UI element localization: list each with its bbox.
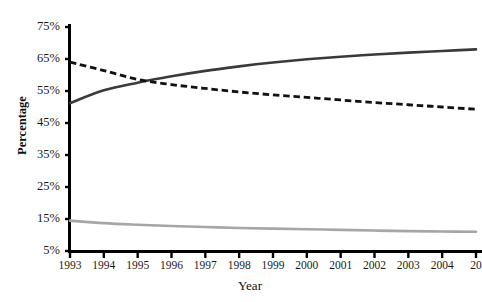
y-axis-title: Percentage	[15, 86, 30, 166]
y-tick-label: 15%	[20, 212, 60, 225]
chart-plot-area	[0, 0, 482, 302]
y-tick-label: 65%	[20, 52, 60, 65]
x-tick-label: 1995	[119, 260, 157, 272]
x-tick-label: 2002	[356, 260, 394, 272]
y-tick-label: 5%	[20, 244, 60, 257]
series-line-declining-dashed	[70, 62, 476, 109]
y-tick-label: 25%	[20, 180, 60, 193]
x-tick-label: 1993	[51, 260, 89, 272]
x-tick-label: 1999	[254, 260, 292, 272]
x-tick-label: 2004	[423, 260, 461, 272]
x-tick-label: 1996	[153, 260, 191, 272]
x-tick-label: 1998	[220, 260, 258, 272]
x-axis-tick-marks	[70, 253, 476, 258]
chart-figure: 75%65%55%45%35%25%15%5% 1993199419951996…	[0, 0, 482, 302]
x-tick-label: 1997	[186, 260, 224, 272]
x-tick-label: 2001	[322, 260, 360, 272]
x-tick-label: 1994	[85, 260, 123, 272]
series-line-low-gray	[70, 221, 476, 232]
x-tick-label: 20	[457, 260, 482, 272]
y-tick-label: 75%	[20, 20, 60, 33]
x-tick-label: 2000	[288, 260, 326, 272]
x-tick-label: 2003	[389, 260, 427, 272]
x-axis-title: Year	[0, 278, 482, 294]
